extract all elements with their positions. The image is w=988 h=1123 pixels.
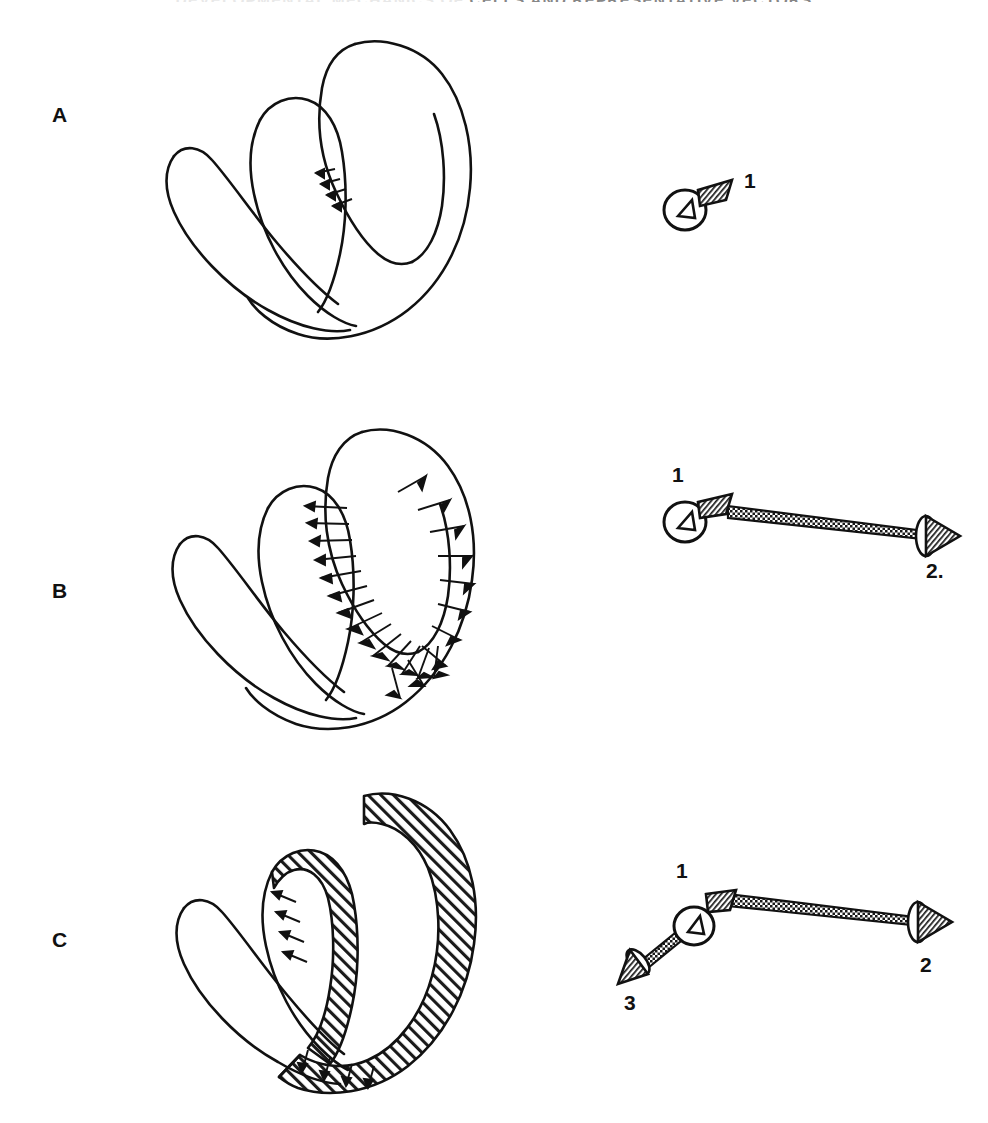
vector-head-b xyxy=(916,516,960,556)
figure-root: DEVELOPMENTAL MECHANICS OF CELLS AND REP… xyxy=(0,0,988,1123)
arrow-field-b-outer xyxy=(387,476,474,698)
embryo-drawing-b xyxy=(150,410,500,740)
running-head: DEVELOPMENTAL MECHANICS OF CELLS AND REP… xyxy=(0,0,988,2)
vector-diagram-c: 1 2 3 xyxy=(590,850,970,1020)
arrow-cluster-c-upper xyxy=(272,891,307,962)
vector-label-b-1: 1 xyxy=(672,463,684,486)
vector-shaft-c-2 xyxy=(728,894,922,926)
panel-label-a: A xyxy=(52,103,68,127)
vector-origin-c xyxy=(674,890,736,945)
running-head-left: DEVELOPMENTAL MECHANICS OF xyxy=(176,0,465,2)
vector-label-c-1: 1 xyxy=(676,859,688,882)
vector-label-c-2: 2 xyxy=(920,953,932,976)
embryo-drawing-c xyxy=(150,770,500,1110)
vector-diagram-a: 1 xyxy=(640,150,970,260)
panel-label-c: C xyxy=(52,928,68,952)
vector-label-b-2: 2. xyxy=(926,559,944,582)
vector-origin-b xyxy=(664,494,732,542)
vector-shaft-b xyxy=(728,506,932,540)
vector-origin-a xyxy=(664,180,732,230)
embryo-drawing-a xyxy=(150,30,500,350)
vector-head-c-2 xyxy=(908,902,952,942)
panel-label-b: B xyxy=(52,579,68,603)
hatched-region-c-middle xyxy=(272,850,358,1064)
vector-head-c-3 xyxy=(618,945,654,984)
vector-label-c-3: 3 xyxy=(624,991,636,1014)
vector-label-a-1: 1 xyxy=(744,169,756,192)
running-head-right: CELLS AND REPRESENTATIVE VECTORS xyxy=(469,0,812,2)
vector-diagram-b: 1 2. xyxy=(640,460,970,600)
